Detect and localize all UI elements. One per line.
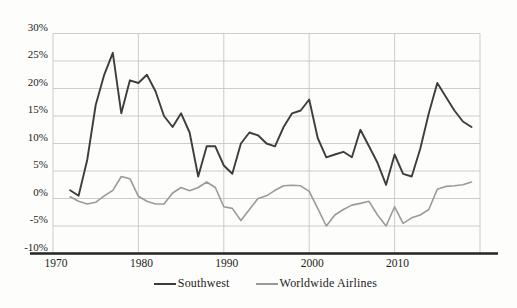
legend-item-southwest: Southwest	[154, 276, 230, 291]
legend-label-worldwide-airlines: Worldwide Airlines	[280, 276, 378, 291]
y-tick-label: 20%	[28, 76, 48, 88]
chart-legend: Southwest Worldwide Airlines	[0, 276, 517, 291]
chart-canvas: 30%25%20%15%10%5%0%-5%-10%19701980199020…	[0, 0, 517, 308]
x-tick-label: 1970	[45, 257, 68, 269]
y-tick-label: 5%	[33, 158, 48, 170]
y-tick-label: 15%	[28, 103, 48, 115]
x-tick-label: 1980	[130, 257, 153, 269]
x-tick-label: 2010	[386, 257, 409, 269]
y-tick-label: 10%	[28, 131, 48, 143]
legend-label-southwest: Southwest	[178, 276, 230, 291]
southwest-line	[70, 53, 471, 196]
legend-item-worldwide-airlines: Worldwide Airlines	[256, 276, 378, 291]
y-tick-label: 25%	[28, 48, 48, 60]
y-tick-label: 0%	[33, 186, 48, 198]
y-tick-label: -10%	[24, 241, 48, 253]
southwest-line-swatch	[154, 283, 176, 285]
x-tick-label: 1990	[215, 257, 238, 269]
x-tick-label: 2000	[301, 257, 324, 269]
y-tick-label: 30%	[28, 21, 48, 33]
y-tick-label: -5%	[30, 213, 48, 225]
worldwide-airlines-line	[70, 177, 471, 227]
worldwide-airlines-line-swatch	[256, 283, 278, 285]
margin-comparison-chart: 30%25%20%15%10%5%0%-5%-10%19701980199020…	[0, 0, 517, 308]
